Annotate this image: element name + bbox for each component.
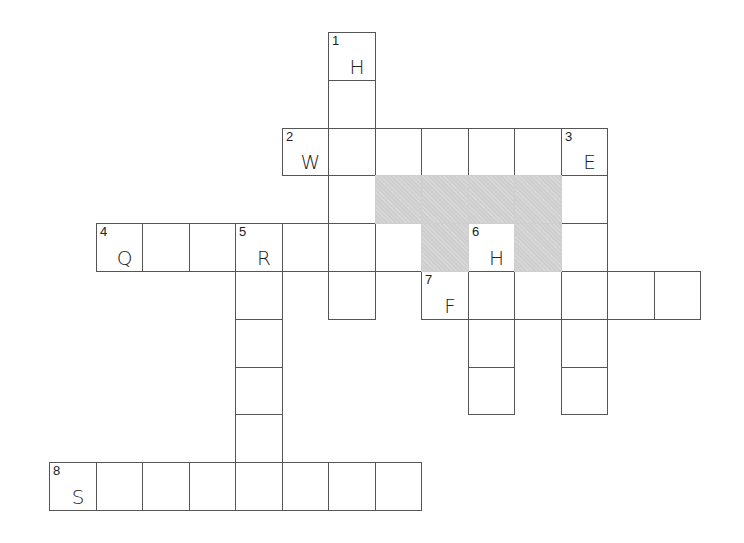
crossword-cell[interactable] bbox=[561, 367, 608, 415]
shaded-block bbox=[375, 175, 422, 224]
crossword-cell[interactable] bbox=[468, 128, 515, 176]
clue-number: 5 bbox=[239, 225, 246, 238]
crossword-cell[interactable] bbox=[282, 462, 329, 511]
crossword-cell[interactable] bbox=[235, 414, 283, 463]
crossword-cell[interactable]: 7F bbox=[421, 271, 469, 320]
given-letter: S bbox=[50, 487, 96, 507]
crossword-cell[interactable] bbox=[375, 462, 422, 511]
given-letter: Q bbox=[97, 248, 142, 268]
crossword-cell[interactable] bbox=[654, 271, 701, 320]
crossword-cell[interactable] bbox=[189, 223, 236, 272]
crossword-cell[interactable] bbox=[514, 128, 562, 176]
clue-number: 8 bbox=[53, 464, 60, 477]
shaded-block bbox=[514, 223, 562, 272]
shaded-block bbox=[421, 223, 469, 272]
crossword-cell[interactable]: 1H bbox=[328, 32, 376, 81]
crossword-cell[interactable] bbox=[561, 175, 608, 224]
crossword-cell[interactable] bbox=[142, 462, 190, 511]
clue-number: 6 bbox=[472, 225, 479, 238]
crossword-cell[interactable] bbox=[282, 223, 329, 272]
clue-number: 2 bbox=[286, 130, 293, 143]
clue-number: 7 bbox=[425, 273, 432, 286]
crossword-board: 1H2W3E4Q5R6H7F8S bbox=[0, 0, 744, 543]
crossword-cell[interactable] bbox=[514, 271, 562, 320]
shaded-block bbox=[468, 175, 515, 224]
clue-number: 3 bbox=[565, 130, 572, 143]
given-letter: H bbox=[329, 57, 375, 77]
crossword-cell[interactable]: 8S bbox=[49, 462, 97, 511]
crossword-cell[interactable] bbox=[328, 128, 376, 176]
crossword-cell[interactable] bbox=[96, 462, 143, 511]
crossword-cell[interactable] bbox=[142, 223, 190, 272]
crossword-cell[interactable] bbox=[468, 367, 515, 415]
crossword-cell[interactable] bbox=[328, 80, 376, 129]
crossword-cell[interactable] bbox=[328, 175, 376, 224]
given-letter: F bbox=[422, 296, 468, 316]
crossword-cell[interactable]: 2W bbox=[282, 128, 329, 176]
crossword-cell[interactable] bbox=[607, 271, 655, 320]
shaded-block bbox=[514, 175, 562, 224]
crossword-cell[interactable] bbox=[235, 462, 283, 511]
crossword-cell[interactable] bbox=[328, 223, 376, 272]
shaded-block bbox=[421, 175, 469, 224]
crossword-cell[interactable] bbox=[235, 367, 283, 415]
crossword-cell[interactable] bbox=[468, 271, 515, 320]
clue-number: 4 bbox=[100, 225, 107, 238]
crossword-cell[interactable] bbox=[561, 271, 608, 320]
crossword-cell[interactable]: 3E bbox=[561, 128, 608, 176]
crossword-cell[interactable]: 6H bbox=[468, 223, 515, 272]
crossword-cell[interactable] bbox=[561, 319, 608, 368]
crossword-cell[interactable] bbox=[235, 319, 283, 368]
crossword-cell[interactable] bbox=[561, 223, 608, 272]
given-letter: R bbox=[236, 248, 282, 268]
crossword-cell[interactable] bbox=[375, 223, 422, 272]
crossword-cell[interactable]: 4Q bbox=[96, 223, 143, 272]
crossword-cell[interactable] bbox=[468, 319, 515, 368]
clue-number: 1 bbox=[332, 34, 339, 47]
crossword-cell[interactable] bbox=[375, 128, 422, 176]
crossword-cell[interactable] bbox=[328, 271, 376, 320]
crossword-cell[interactable] bbox=[421, 128, 469, 176]
given-letter: H bbox=[469, 248, 514, 268]
crossword-cell[interactable] bbox=[235, 271, 283, 320]
crossword-cell[interactable] bbox=[328, 462, 376, 511]
given-letter: E bbox=[562, 152, 607, 172]
given-letter: W bbox=[283, 152, 328, 172]
crossword-cell[interactable] bbox=[189, 462, 236, 511]
crossword-cell[interactable]: 5R bbox=[235, 223, 283, 272]
